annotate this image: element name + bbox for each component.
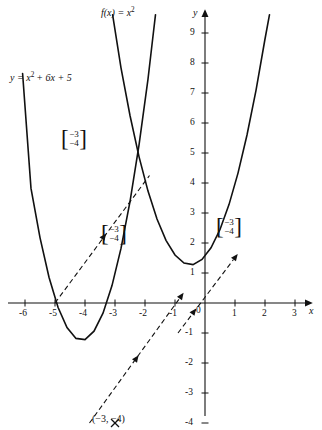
curve-label-original: f(x) = x2 xyxy=(101,8,135,18)
vector-matrix-2: [ −3 −4 ] xyxy=(101,225,127,244)
matrix-3-bottom-value: −4 xyxy=(224,227,234,236)
matrix-2-bottom-value: −4 xyxy=(109,234,119,243)
matrix-1-left-bracket: [ xyxy=(61,130,69,149)
y-tick-label--1: -1 xyxy=(185,328,193,338)
y-axis-label: y xyxy=(193,8,197,18)
y-tick-label--2: -2 xyxy=(185,358,193,368)
translation-vector-3 xyxy=(178,260,234,334)
matrix-3-right-bracket: ] xyxy=(234,218,242,237)
vector-matrix-1: [ −3 −4 ] xyxy=(61,130,87,149)
graph-figure xyxy=(0,0,322,430)
x-axis-label: x xyxy=(309,306,313,316)
vector-2-tail-arrowhead xyxy=(177,291,186,300)
curve-translated-parabola xyxy=(23,15,156,340)
vector-matrix-3: [ −3 −4 ] xyxy=(216,218,242,237)
x-tick-label--6: -6 xyxy=(19,309,27,319)
curve-label-original-exponent: 2 xyxy=(131,6,135,14)
x-tick-label-1: 1 xyxy=(232,309,237,319)
x-tick-label--3: -3 xyxy=(109,309,117,319)
curve-label-original-text: f(x) = x xyxy=(101,7,131,18)
x-tick-label--2: -2 xyxy=(139,309,147,319)
y-tick-label-1: 1 xyxy=(190,268,195,278)
matrix-3-values: −3 −4 xyxy=(224,218,235,236)
y-tick-label-9: 9 xyxy=(190,28,195,38)
x-tick-label--1: -1 xyxy=(169,309,177,319)
y-tick-label-8: 8 xyxy=(190,58,195,68)
matrix-1-right-bracket: ] xyxy=(79,130,87,149)
y-tick-label-7: 7 xyxy=(190,88,195,98)
matrix-2-right-bracket: ] xyxy=(119,225,127,244)
y-tick-label-6: 6 xyxy=(190,118,195,128)
curve-label-translated-rhs: + 6x + 5 xyxy=(36,72,71,83)
vertex-coordinate-label: (−3, −4) xyxy=(92,414,125,424)
y-tick-label--4: -4 xyxy=(185,418,193,428)
y-tick-label-3: 3 xyxy=(190,208,195,218)
y-tick-label-5: 5 xyxy=(190,148,195,158)
curve-original-parabola xyxy=(113,15,270,265)
matrix-2-left-bracket: [ xyxy=(101,225,109,244)
matrix-3-left-bracket: [ xyxy=(216,218,224,237)
y-tick-label-4: 4 xyxy=(190,178,195,188)
translation-vectors xyxy=(55,176,240,424)
curve-label-translated: y = x2+ 6x + 5 xyxy=(10,73,72,83)
matrix-1-values: −3 −4 xyxy=(69,130,80,148)
x-tick-label-2: 2 xyxy=(262,309,267,319)
curve-label-translated-exponent: 2 xyxy=(31,71,35,79)
x-tick-label--5: -5 xyxy=(49,309,57,319)
y-tick-label-2: 2 xyxy=(190,238,195,248)
x-tick-label--4: -4 xyxy=(79,309,87,319)
vector-3-arrowhead xyxy=(231,252,240,261)
matrix-2-values: −3 −4 xyxy=(109,225,120,243)
curve-label-translated-lhs: y = x xyxy=(10,72,31,83)
origin-label: 0 xyxy=(196,306,201,316)
matrix-1-bottom-value: −4 xyxy=(69,139,79,148)
y-tick-label--3: -3 xyxy=(185,388,193,398)
x-tick-label-3: 3 xyxy=(292,309,297,319)
